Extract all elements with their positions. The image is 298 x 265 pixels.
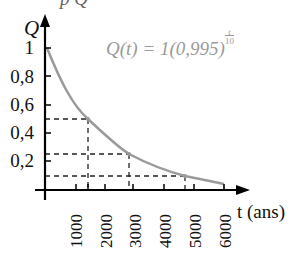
x-tick-label: 4000 — [156, 214, 176, 248]
y-axis-label: Q — [24, 18, 39, 39]
y-axis-arrow-icon — [40, 14, 50, 27]
x-axis-label: t (ans) — [237, 202, 285, 221]
x-tick-label: 6000 — [216, 214, 236, 248]
y-tick-label: 0,4 — [0, 123, 34, 142]
curve-points — [86, 117, 187, 178]
x-axis-arrow-icon — [236, 185, 250, 195]
x-tick-label: 1000 — [67, 214, 87, 248]
y-tick-label: 0,8 — [0, 67, 34, 86]
decay-curve — [47, 48, 224, 184]
x-tick-label: 3000 — [126, 214, 146, 248]
y-tick-label: 1 — [0, 38, 34, 57]
formula-text: Q(t) = 1(0,995) — [106, 38, 225, 59]
y-tick-label: 0,6 — [0, 95, 34, 114]
y-tick-label: 0,2 — [0, 151, 34, 170]
x-tick-label: 2000 — [97, 214, 117, 248]
x-tick-label: 5000 — [186, 214, 206, 248]
formula-label: Q(t) = 1(0,995)t10 — [106, 38, 234, 60]
formula-exponent: t10 — [225, 28, 234, 46]
dashed-guides — [45, 119, 185, 190]
